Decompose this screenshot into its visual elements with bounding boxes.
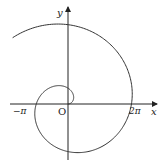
y-axis-label: y: [56, 7, 63, 18]
origin-label: O: [58, 106, 66, 117]
x-axis-label: x: [151, 106, 157, 117]
tick-minus-pi: −π: [13, 106, 28, 116]
spiral-figure: y x O −π 2π: [0, 0, 167, 163]
spiral-curve: [13, 24, 133, 153]
tick-2pi: 2π: [128, 106, 142, 116]
